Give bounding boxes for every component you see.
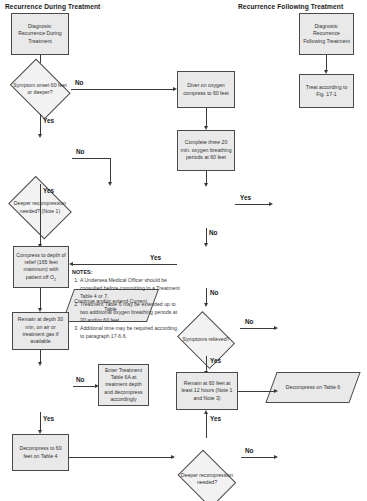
arrowhead-left: [69, 262, 73, 266]
edge-label-yes: Yes: [210, 415, 221, 422]
edge-label-no: No: [75, 79, 84, 86]
edge-label-yes: Yes: [150, 254, 161, 261]
edge-label-no: No: [209, 229, 218, 236]
edge-label-yes: Yes: [240, 194, 251, 201]
node-diver-on-oxygen-compress-60: Diver on oxygen compress to 60 feet: [177, 71, 235, 108]
connector-symptoms-relieved-yes: [235, 204, 271, 205]
node-treat-according-to-fig: Treat according to Fig. 17-1: [299, 74, 354, 108]
flowchart-canvas: Recurrence During Treatment Recurrence F…: [0, 0, 367, 501]
arrowhead-down: [38, 362, 42, 366]
connector-diver-to-complete-three: [206, 108, 207, 128]
arrowhead-down: [204, 243, 208, 247]
edge-label-no: No: [76, 376, 85, 383]
connector-life-threat-no: [240, 328, 276, 329]
node-complete-three-oxygen-periods: Complete three 20 min. oxygen breathing …: [177, 130, 235, 171]
arrowhead-right: [269, 202, 273, 206]
arrowhead-up: [204, 410, 208, 414]
decision-deeper-recompression-2: Deeper recompression needed?: [175, 455, 239, 501]
connector-symptoms-still-yes: [206, 414, 207, 438]
edge-label-yes: Yes: [43, 187, 54, 194]
node-remain-at-60-feet-12-hours: Remain at 60 feet at least 12 hours (Not…: [176, 372, 238, 410]
edge-label-no: No: [245, 447, 254, 454]
arrowhead-down: [108, 182, 112, 186]
node-diagnosis-recurrence-following-treatment: Diagnosis: Recurrence Following Treatmen…: [299, 13, 354, 55]
connector-deeper1-yes: [40, 184, 41, 246]
edge-label-yes: Yes: [43, 415, 54, 422]
edge-label-yes: Yes: [43, 117, 54, 124]
compress-text: Compress to depth of relief (165 feet ma…: [16, 252, 66, 283]
connector-symptom-onset-yes: [40, 114, 41, 136]
connector-symptoms-still-no: [241, 457, 276, 458]
connector-more-time-no: [73, 386, 97, 387]
connector-symptom-onset-no: [71, 89, 175, 90]
arrowhead-right: [274, 455, 278, 459]
note-item: Additional time may be required accordin…: [80, 325, 180, 341]
node-compress-to-depth-of-relief: Compress to depth of relief (165 feet ma…: [13, 246, 69, 288]
connector-deeper1-no-h: [72, 158, 111, 159]
node-decompress-on-table-6: Decompress on Table 6: [271, 372, 355, 403]
notes-title: NOTES:: [72, 268, 180, 276]
edge-label-yes: Yes: [210, 357, 221, 364]
connector-remain60-to-table7: [238, 391, 276, 392]
arrowhead-down: [38, 134, 42, 138]
arrowhead-right: [274, 389, 278, 393]
arrowhead-right: [171, 455, 175, 459]
connector-deeper1-no-v: [110, 158, 111, 184]
connector-more-time-yes: [40, 412, 41, 432]
node-diagnosis-recurrence-during-treatment: Diagnosis: Recurrence During Treatment: [11, 13, 69, 55]
note-item: A Undersea Medical Officer should be con…: [80, 277, 180, 300]
decision-symptom-onset-60-feet: Symptom onset 60 feet or deeper?: [7, 64, 73, 114]
heading-recurrence-during-treatment: Recurrence During Treatment: [5, 3, 100, 10]
node-decompress-to-60-feet-table-4: Decompress to 60 feet on Table 4: [12, 434, 69, 471]
connector-compress-to-remain-depth: [40, 288, 41, 310]
edge-label-no: No: [76, 148, 85, 155]
connector-decomp60-to-symptoms-still: [69, 457, 173, 458]
edge-label-no: No: [245, 318, 254, 325]
arrowhead-down: [204, 183, 208, 187]
edge-label-no: No: [210, 289, 219, 296]
arrowhead-right: [274, 326, 278, 330]
node-remain-at-depth-30-min: Remain at depth 30 min, on air or treatm…: [12, 312, 69, 350]
arrowhead-down: [204, 303, 208, 307]
heading-recurrence-following-treatment: Recurrence Following Treatment: [238, 3, 343, 10]
node-enter-treatment-table-6a: Enter Treatment Table 6A at treatment de…: [98, 364, 149, 406]
connector-deeper2-yes: [71, 264, 177, 265]
